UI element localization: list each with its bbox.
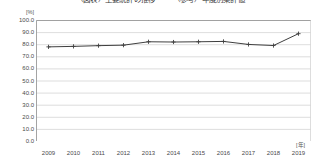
data-point-marker [221,39,225,43]
chart-title: （図表）主要統計の推移 （参考）年度別集計値 [0,0,321,4]
x-axis-tick-label: 2019 [282,150,316,157]
y-axis-tick-label: 90.0 [0,29,34,35]
data-point-marker [171,40,175,44]
data-point-marker [121,43,125,47]
y-axis-tick-label: 60.0 [0,65,34,71]
data-point-marker [196,40,200,44]
data-point-marker [246,42,250,46]
x-axis-tick-labels: 2009201020112012201320142015201620172018… [0,150,321,162]
y-axis-tick-label: 50.0 [0,78,34,84]
plot-area [36,20,311,141]
x-axis-unit-label: [年] [296,142,305,148]
y-axis-tick-label: 20.0 [0,114,34,120]
y-axis-tick-label: 40.0 [0,90,34,96]
data-point-marker [271,43,275,47]
data-point-marker [146,40,150,44]
y-axis-tick-label: 10.0 [0,126,34,132]
y-axis-tick-label: 70.0 [0,53,34,59]
y-axis-tick-label: 30.0 [0,102,34,108]
y-axis-tick-label: 100.0 [0,17,34,23]
data-point-marker [96,44,100,48]
y-axis-tick-labels: 100.090.080.070.060.050.040.030.020.010.… [0,0,34,167]
data-point-marker [46,45,50,49]
gridlines [36,21,311,142]
line-chart: （図表）主要統計の推移 （参考）年度別集計値 [%] [年] 100.090.0… [0,0,321,167]
y-axis-tick-label: 80.0 [0,41,34,47]
y-axis-tick-label: 0.0 [0,138,34,144]
